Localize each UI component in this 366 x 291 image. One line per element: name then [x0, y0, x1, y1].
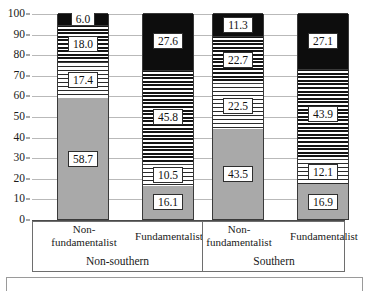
y-tick-label: 0: [19, 214, 25, 226]
y-tick-label: 60: [14, 91, 26, 103]
y-tick-mark: [26, 96, 30, 97]
legend-box: [6, 277, 363, 291]
segment-value-label: 22.7: [223, 52, 253, 68]
bar-segment-light-hatch[interactable]: 22.5: [213, 83, 263, 129]
segment-divider: [58, 62, 108, 63]
segment-value-label: 43.9: [308, 106, 338, 122]
y-tick-label: 70: [14, 70, 26, 82]
segment-divider: [58, 25, 108, 26]
bar-segment-dense-hatch[interactable]: 43.9: [298, 69, 348, 159]
bar-segment-light-hatch[interactable]: 12.1: [298, 159, 348, 184]
bar-segment-light-hatch[interactable]: 17.4: [58, 62, 108, 98]
segment-value-label: 58.7: [68, 151, 98, 167]
bar-1[interactable]: 58.717.418.06.0: [57, 14, 109, 220]
plot-area: 58.717.418.06.016.110.545.827.643.522.52…: [32, 14, 345, 220]
y-tick-label: 20: [14, 173, 26, 185]
segment-value-label: 18.0: [68, 36, 98, 52]
segment-value-label: 10.5: [153, 167, 183, 183]
group-label-2: Southern: [202, 254, 346, 269]
bar-segment-solid-gray[interactable]: 58.7: [58, 98, 108, 219]
segment-divider: [213, 13, 263, 14]
y-tick-mark: [26, 117, 30, 118]
bar-segment-solid-black[interactable]: 27.1: [298, 13, 348, 69]
segment-value-label: 16.9: [308, 194, 338, 210]
y-tick-mark: [26, 75, 30, 76]
segment-value-label: 45.8: [153, 109, 183, 125]
y-tick-label: 10: [14, 194, 26, 206]
y-tick-mark: [26, 34, 30, 35]
segment-value-label: 27.6: [153, 33, 183, 49]
segment-value-label: 12.1: [308, 164, 338, 180]
group-separator: [202, 222, 203, 271]
segment-divider: [298, 159, 348, 160]
segment-divider: [143, 13, 193, 14]
bar-segment-solid-gray[interactable]: 43.5: [213, 129, 263, 219]
bar-segment-dense-hatch[interactable]: 18.0: [58, 25, 108, 62]
bar-segment-dense-hatch[interactable]: 45.8: [143, 70, 193, 164]
segment-divider: [143, 164, 193, 165]
y-tick-mark: [26, 158, 30, 159]
segment-value-label: 22.5: [223, 98, 253, 114]
bar-segment-solid-gray[interactable]: 16.1: [143, 186, 193, 219]
segment-value-label: 11.3: [223, 17, 253, 33]
segment-divider: [143, 70, 193, 71]
segment-divider: [213, 36, 263, 37]
segment-divider: [213, 83, 263, 84]
y-tick-mark: [26, 137, 30, 138]
group-label-1: Non-southern: [33, 254, 202, 269]
bar-3[interactable]: 43.522.522.711.3: [212, 14, 264, 220]
y-tick-label: 80: [14, 49, 26, 61]
y-tick-label: 40: [14, 132, 26, 144]
category-label-4: Fundamentalist: [272, 230, 366, 243]
y-axis: 0102030405060708090100: [0, 14, 30, 220]
bar-segment-solid-black[interactable]: 6.0: [58, 13, 108, 25]
y-tick-mark: [26, 178, 30, 179]
segment-divider: [298, 13, 348, 14]
category-axis-block: Non-fundamentalistFundamentalistNon-fund…: [32, 221, 345, 272]
segment-value-label: 43.5: [223, 166, 253, 182]
category-label-row: Non-fundamentalistFundamentalistNon-fund…: [33, 222, 344, 252]
segment-value-label: 17.4: [68, 72, 98, 88]
bar-2[interactable]: 16.110.545.827.6: [142, 14, 194, 220]
y-tick-label: 90: [14, 29, 26, 41]
y-tick-label: 50: [14, 111, 26, 123]
y-tick-mark: [26, 220, 30, 221]
segment-divider: [298, 69, 348, 70]
bar-4[interactable]: 16.912.143.927.1: [297, 14, 349, 220]
y-tick-mark: [26, 14, 30, 15]
y-tick-label: 30: [14, 152, 26, 164]
bar-segment-light-hatch[interactable]: 10.5: [143, 164, 193, 186]
segment-value-label: 6.0: [71, 13, 95, 25]
y-tick-mark: [26, 55, 30, 56]
group-label-row: Non-southernSouthern: [33, 252, 344, 272]
segment-value-label: 16.1: [153, 194, 183, 210]
bar-segment-solid-gray[interactable]: 16.9: [298, 184, 348, 219]
y-tick-mark: [26, 199, 30, 200]
y-tick-label: 100: [8, 8, 25, 20]
bar-segment-solid-black[interactable]: 27.6: [143, 13, 193, 70]
bar-segment-dense-hatch[interactable]: 22.7: [213, 36, 263, 83]
bar-segment-solid-black[interactable]: 11.3: [213, 13, 263, 36]
segment-value-label: 27.1: [308, 33, 338, 49]
